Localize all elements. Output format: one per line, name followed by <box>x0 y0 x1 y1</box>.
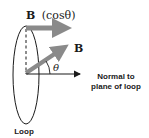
loop-label: Loop <box>14 127 34 136</box>
angle-label: θ <box>53 62 59 73</box>
b-component-expr: (cosθ) <box>42 9 76 22</box>
normal-label-line1: Normal to <box>97 72 134 81</box>
normal-label-line2: plane of loop <box>91 82 141 91</box>
b-vector-label: B <box>74 42 83 55</box>
angle-arc <box>46 61 50 74</box>
magnetic-flux-diagram: B (cosθ) B θ Normal to plane of loop Loo… <box>0 0 149 138</box>
b-component-label: B <box>26 9 35 22</box>
svg-text:B (cosθ): B (cosθ) <box>26 9 75 22</box>
